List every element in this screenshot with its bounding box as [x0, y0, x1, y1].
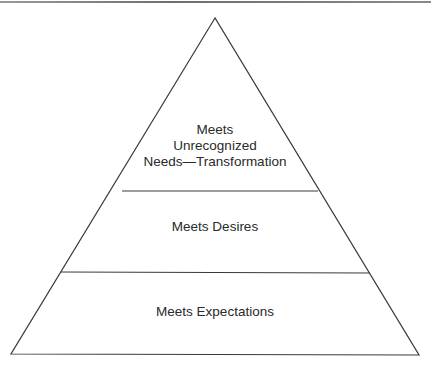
level-bottom-line-1: Meets Expectations [156, 304, 274, 320]
level-middle-line-1: Meets Desires [172, 219, 258, 235]
level-middle-label: Meets Desires [172, 219, 258, 235]
level-top-line-2: Unrecognized [144, 138, 287, 154]
level-top-line-1: Meets [144, 122, 287, 138]
level-bottom-label: Meets Expectations [156, 304, 274, 320]
level-top-label: Meets Unrecognized Needs—Transformation [144, 122, 287, 170]
level-top-line-3: Needs—Transformation [144, 154, 287, 170]
